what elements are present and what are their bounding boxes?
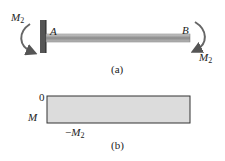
min-moment-label: −M2: [65, 127, 84, 141]
figure-b-caption: (b): [111, 140, 124, 151]
left-moment-arrow-icon: [21, 24, 32, 52]
fixed-support-wall: [40, 20, 46, 53]
figure-a-caption: (a): [111, 64, 123, 75]
right-moment-label: M2: [199, 52, 212, 66]
zero-axis-label: 0: [39, 92, 45, 103]
point-a-label: A: [50, 26, 57, 37]
moment-diagram-rect: [47, 96, 190, 123]
beam: [46, 34, 190, 42]
left-moment-label: M2: [11, 12, 24, 26]
right-moment-arrow-icon: [195, 22, 205, 50]
point-b-label: B: [182, 25, 189, 36]
moment-axis-label: M: [28, 112, 37, 123]
diagram-graphics: [0, 0, 225, 161]
